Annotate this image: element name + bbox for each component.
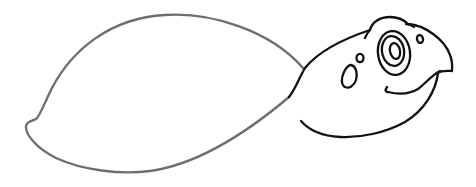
turtle-drawing	[0, 0, 476, 187]
